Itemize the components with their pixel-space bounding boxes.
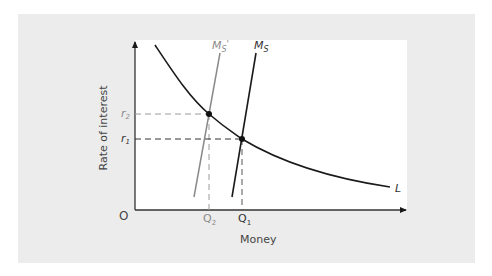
r1-label: r1 <box>121 132 130 146</box>
q1-label: Q1 <box>238 212 251 227</box>
equilibrium-point-r1 <box>239 136 245 142</box>
r2-label: r2 <box>121 107 131 121</box>
money-market-diagram: MS' MS L r2 r1 Q2 Q1 O Money Rate of int… <box>0 0 492 276</box>
l-curve-label: L <box>395 182 401 195</box>
ms-prime-label: MS' <box>212 39 229 54</box>
x-axis-label: Money <box>240 233 277 246</box>
liquidity-preference-curve <box>155 45 390 187</box>
ms-label: MS <box>254 39 269 54</box>
q2-label: Q2 <box>203 212 216 227</box>
ms-curve <box>232 53 256 197</box>
y-axis-label: Rate of interest <box>97 85 110 171</box>
origin-label: O <box>119 209 128 223</box>
ms-prime-curve <box>194 53 220 197</box>
equilibrium-point-r2 <box>206 111 212 117</box>
